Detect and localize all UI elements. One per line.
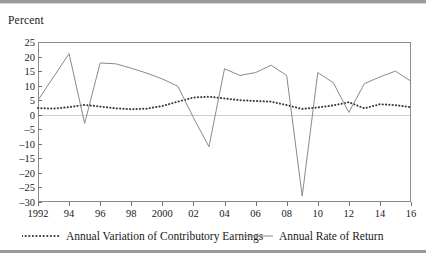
- x-axis-tick-mark: [162, 202, 163, 206]
- x-axis-tick-mark: [69, 202, 70, 206]
- x-axis-tick-label: 16: [406, 208, 417, 219]
- x-axis-tick-mark: [256, 202, 257, 206]
- y-axis-tick-mark: [38, 115, 42, 116]
- x-axis-tick-mark: [349, 202, 350, 206]
- x-axis-tick-label: 14: [375, 208, 386, 219]
- x-axis-tick-label: 96: [95, 208, 106, 219]
- y-axis-tick-mark: [38, 86, 42, 87]
- x-axis-tick-label: 10: [313, 208, 324, 219]
- x-axis-tick-mark: [100, 202, 101, 206]
- legend-solid-swatch-icon: [243, 232, 273, 240]
- x-axis-tick-label: 98: [126, 208, 137, 219]
- plot-area: 2520151050–5–10–15–20–25–30 199294969820…: [0, 0, 426, 258]
- y-axis-tick-mark: [38, 71, 42, 72]
- page-rule-bottom: [0, 250, 426, 253]
- chart-legend: Annual Variation of Contributory Earning…: [0, 228, 426, 246]
- x-axis-tick-label: 04: [219, 208, 230, 219]
- y-axis-tick-mark: [38, 57, 42, 58]
- x-axis-tick-mark: [38, 202, 39, 206]
- legend-item: Annual Rate of Return: [243, 230, 383, 242]
- legend-label: Annual Rate of Return: [279, 230, 383, 242]
- x-axis-tick-mark: [287, 202, 288, 206]
- series-lines: [0, 0, 426, 258]
- x-axis-tick-label: 94: [64, 208, 75, 219]
- legend-dotted-swatch-icon: [22, 232, 60, 240]
- x-axis-tick-mark: [193, 202, 194, 206]
- x-axis-tick-label: 08: [281, 208, 292, 219]
- x-axis-tick-label: 1992: [28, 208, 49, 219]
- x-axis-tick-mark: [131, 202, 132, 206]
- x-axis-tick-label: 12: [344, 208, 355, 219]
- x-axis-tick-label: 06: [250, 208, 261, 219]
- figure-canvas: Percent 2520151050–5–10–15–20–25–30 1992…: [0, 0, 426, 258]
- y-axis-tick-mark: [38, 158, 42, 159]
- legend-item: Annual Variation of Contributory Earning…: [22, 230, 263, 242]
- x-axis-tick-label: 02: [188, 208, 199, 219]
- series-line: [38, 97, 411, 110]
- y-axis-tick-mark: [38, 187, 42, 188]
- x-axis-tick-label: 2000: [152, 208, 173, 219]
- y-axis-tick-mark: [38, 129, 42, 130]
- legend-label: Annual Variation of Contributory Earning…: [66, 230, 263, 242]
- series-line: [38, 54, 411, 197]
- y-axis-tick-mark: [38, 100, 42, 101]
- x-axis-tick-mark: [380, 202, 381, 206]
- x-axis-tick-mark: [225, 202, 226, 206]
- y-axis-tick-mark: [38, 173, 42, 174]
- x-axis-tick-mark: [411, 202, 412, 206]
- y-axis-tick-mark: [38, 144, 42, 145]
- x-axis-tick-mark: [318, 202, 319, 206]
